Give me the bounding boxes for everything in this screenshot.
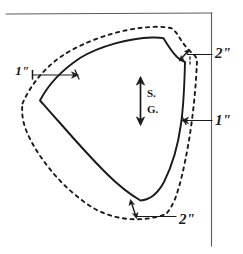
dimension-label-right: 1" [215, 112, 231, 128]
dimension-label-left: 1" [15, 63, 29, 78]
fabric-edge-top-line [6, 13, 212, 14]
seam-allowance-line [22, 27, 197, 219]
dimension-label-bottom: 2" [178, 211, 195, 227]
straight-grain-arrow [137, 77, 145, 126]
cut-line [40, 37, 185, 200]
dimension-bottom-leader [129, 200, 176, 219]
pattern-diagram: 1" 2" 1" 2" S. G. [0, 0, 243, 254]
grain-label-line2: G. [147, 103, 159, 115]
dimension-label-top-right: 2" [214, 45, 231, 61]
diagram-canvas: 1" 2" 1" 2" S. G. [0, 0, 243, 254]
dimension-right-leader [182, 117, 213, 125]
grain-label-line1: S. [147, 87, 156, 99]
